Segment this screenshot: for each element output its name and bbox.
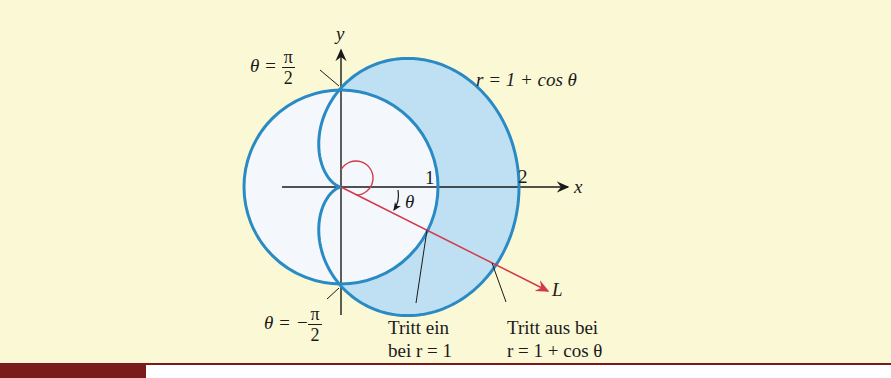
fraction-numerator: π [308,305,321,325]
fraction-denominator: 2 [284,68,293,87]
theta-bottom-annotation: θ = −π2 [264,305,322,344]
theta-top-annotation: θ = π2 [250,48,295,87]
enter-line-2: bei r = 1 [388,339,452,362]
exit-annotation: Tritt aus bei r = 1 + cos θ [507,316,602,362]
theta-bottom-lhs: θ = − [264,312,308,333]
theta-top-fraction: π2 [282,48,295,87]
enter-line-1: Tritt ein [388,316,452,339]
ray-label: L [552,280,563,299]
footer-area [146,365,891,378]
exit-line-2: r = 1 + cos θ [507,339,602,362]
x-axis-label: x [574,177,582,196]
fraction-numerator: π [282,48,295,68]
theta-angle-label: θ [405,192,414,211]
tick-label-1: 1 [425,168,435,187]
enter-annotation: Tritt ein bei r = 1 [388,316,452,362]
theta-bottom-fraction: π2 [308,305,321,344]
footer-bar [0,363,146,378]
theta-top-lhs: θ = [250,55,282,76]
leader-theta-top [320,70,339,86]
cardioid-label: r = 1 + cos θ [476,70,577,89]
leader-theta-bottom [327,288,339,299]
exit-line-1: Tritt aus bei [507,316,602,339]
footer-rule [146,363,891,365]
y-axis-label: y [336,24,344,43]
fraction-denominator: 2 [311,325,320,344]
tick-label-2: 2 [518,167,528,186]
